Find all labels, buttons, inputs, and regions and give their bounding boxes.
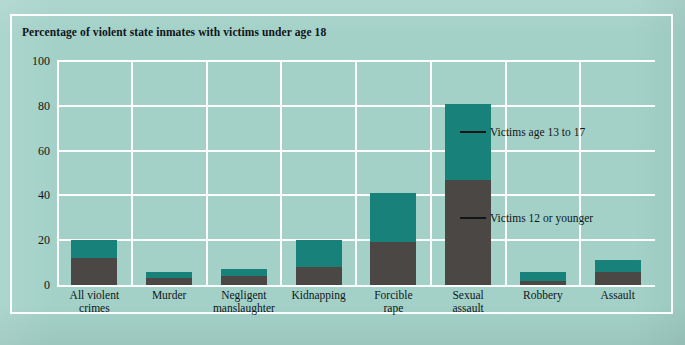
bar-segment-lower bbox=[146, 278, 192, 285]
x-tick-label: Assault bbox=[580, 289, 655, 302]
bar-segment-upper bbox=[296, 240, 342, 267]
x-tick-label-line: Murder bbox=[132, 289, 207, 302]
y-tick-label: 100 bbox=[32, 54, 50, 69]
bar-segment-upper bbox=[445, 104, 491, 180]
y-tick-label: 0 bbox=[44, 278, 50, 293]
bar-segment-upper bbox=[370, 193, 416, 242]
y-tick-label: 60 bbox=[38, 143, 50, 158]
bar-segment-lower bbox=[370, 242, 416, 285]
bar-segment-lower bbox=[520, 281, 566, 285]
annotation-upper-label: Victims age 13 to 17 bbox=[490, 126, 585, 138]
x-tick-label-line: Negligent bbox=[207, 289, 282, 302]
x-tick-label: Robbery bbox=[506, 289, 581, 302]
x-tick-label-line: Kidnapping bbox=[281, 289, 356, 302]
bar-assault bbox=[595, 260, 641, 285]
bar-series-group bbox=[57, 61, 655, 285]
leader-line-icon bbox=[460, 217, 486, 219]
bar-robbery bbox=[520, 272, 566, 285]
x-tick-label: Kidnapping bbox=[281, 289, 356, 302]
bar-kidnapping bbox=[296, 240, 342, 285]
leader-line-icon bbox=[460, 131, 486, 133]
x-tick-label-line: crimes bbox=[57, 302, 132, 315]
x-tick-label-line: manslaughter bbox=[207, 302, 282, 315]
bar-segment-lower bbox=[595, 272, 641, 285]
bar-segment-lower bbox=[221, 276, 267, 285]
annotation-lower-segment: Victims 12 or younger bbox=[460, 212, 593, 224]
x-tick-label-line: All violent bbox=[57, 289, 132, 302]
x-tick-label: Forciblerape bbox=[356, 289, 431, 315]
annotation-upper-segment: Victims age 13 to 17 bbox=[460, 126, 585, 138]
y-tick-label: 20 bbox=[38, 233, 50, 248]
x-tick-label: Murder bbox=[132, 289, 207, 302]
bar-segment-upper bbox=[520, 272, 566, 281]
x-tick-label-line: assault bbox=[431, 302, 506, 315]
bar-segment-upper bbox=[221, 269, 267, 276]
plot-area: 020406080100 All violentcrimesMurderNegl… bbox=[57, 61, 655, 285]
bar-segment-upper bbox=[71, 240, 117, 258]
x-tick-label-line: Sexual bbox=[431, 289, 506, 302]
bar-segment-lower bbox=[445, 180, 491, 285]
x-tick-label-line: Robbery bbox=[506, 289, 581, 302]
x-tick-label-line: Forcible bbox=[356, 289, 431, 302]
y-tick-label: 40 bbox=[38, 188, 50, 203]
chart-figure: Percentage of violent state inmates with… bbox=[0, 0, 685, 345]
x-tick-label: All violentcrimes bbox=[57, 289, 132, 315]
bar-negligent-manslaughter bbox=[221, 269, 267, 285]
bar-all-violent-crimes bbox=[71, 240, 117, 285]
bar-murder bbox=[146, 272, 192, 285]
bar-forcible-rape bbox=[370, 193, 416, 285]
y-tick-label: 80 bbox=[38, 98, 50, 113]
x-tick-label-line: rape bbox=[356, 302, 431, 315]
x-axis-line bbox=[57, 285, 655, 287]
bar-segment-upper bbox=[146, 272, 192, 279]
bar-segment-lower bbox=[296, 267, 342, 285]
bar-segment-lower bbox=[71, 258, 117, 285]
x-tick-label-line: Assault bbox=[580, 289, 655, 302]
x-tick-label: Negligentmanslaughter bbox=[207, 289, 282, 315]
chart-title: Percentage of violent state inmates with… bbox=[22, 26, 326, 38]
annotation-lower-label: Victims 12 or younger bbox=[490, 212, 593, 224]
x-tick-label: Sexualassault bbox=[431, 289, 506, 315]
bar-segment-upper bbox=[595, 260, 641, 271]
